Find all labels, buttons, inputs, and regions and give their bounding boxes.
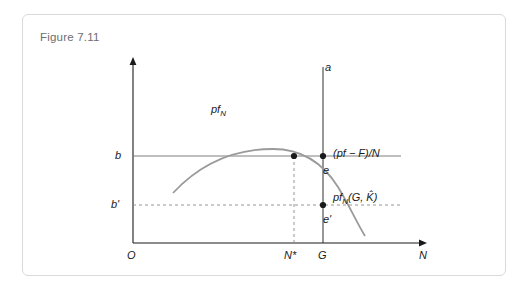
point-e-prime (320, 202, 326, 208)
point-c (291, 153, 297, 159)
origin-label: O (127, 249, 136, 261)
y-tick-label-b-prime: b' (111, 198, 119, 210)
label-point-e-prime: e' (323, 213, 331, 225)
point-e (320, 153, 326, 159)
x-tick-label-n-star: N* (284, 249, 296, 261)
label-a: a (325, 61, 331, 73)
label-pf-minus-f-over-n: (pf − F)/N (333, 147, 380, 159)
chart-plot (23, 15, 507, 277)
y-tick-label-b: b (115, 149, 121, 161)
x-axis-label: N (419, 249, 427, 261)
label-curve-pf-n: pfN (211, 103, 226, 118)
y-axis-arrow (130, 57, 137, 65)
x-axis-arrow (419, 240, 427, 247)
figure-card: Figure 7.11 a pfN (pf − F)/N pfN(G, K̂) (22, 14, 506, 276)
x-tick-label-g: G (318, 249, 327, 261)
label-pf-n-g-k: pfN(G, K̂) (333, 191, 377, 206)
label-point-e: e (323, 164, 329, 176)
